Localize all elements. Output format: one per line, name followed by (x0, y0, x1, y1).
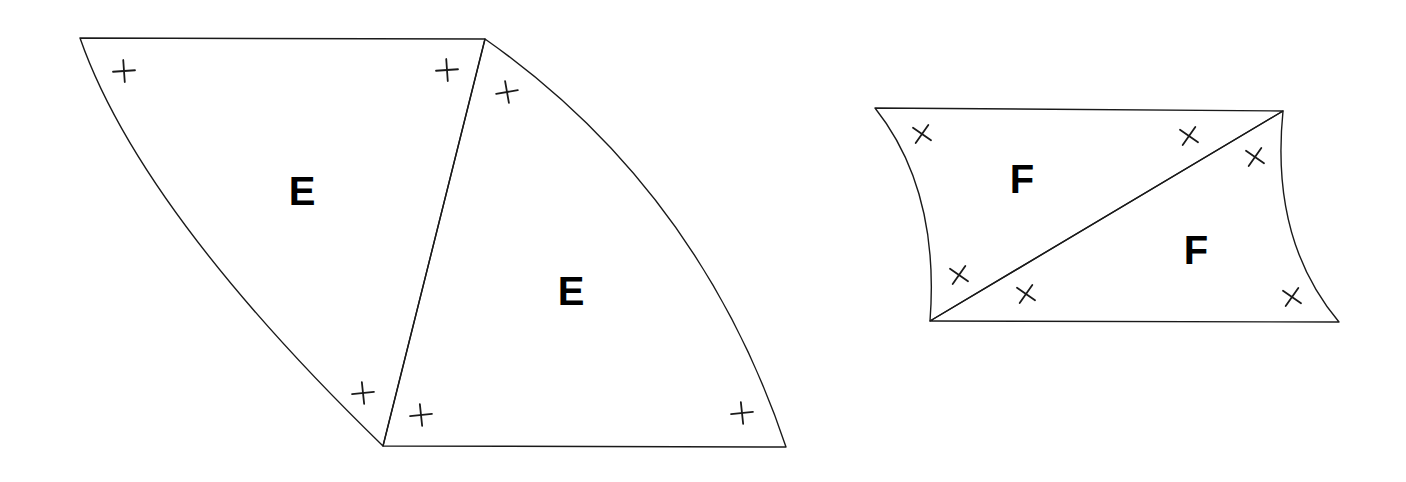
piece-group-f: F F (875, 108, 1339, 322)
plus-icon (494, 79, 519, 104)
plus-icon (112, 59, 135, 82)
piece-e1-outline (80, 38, 485, 446)
cross-icon (1011, 279, 1042, 310)
cross-icon (1240, 142, 1271, 173)
plus-icon (730, 401, 754, 425)
piece-f1-outline (875, 108, 1283, 321)
registration-marks-e (112, 58, 754, 427)
cross-icon (907, 119, 938, 150)
piece-e2-outline (383, 39, 786, 447)
plus-icon (409, 403, 433, 427)
piece-e2-label: E (558, 269, 585, 313)
cross-icon (944, 260, 975, 291)
piece-f1-label: F (1010, 157, 1034, 201)
cross-icon (1174, 121, 1205, 152)
cross-icon (1277, 282, 1308, 313)
plus-icon (351, 381, 375, 405)
piece-group-e: E E (80, 38, 786, 447)
piece-f2-outline (930, 111, 1339, 322)
piece-f2-label: F (1184, 228, 1208, 272)
piece-e1-label: E (289, 169, 316, 213)
pattern-diagram: E E F (0, 0, 1406, 482)
plus-icon (435, 58, 458, 81)
